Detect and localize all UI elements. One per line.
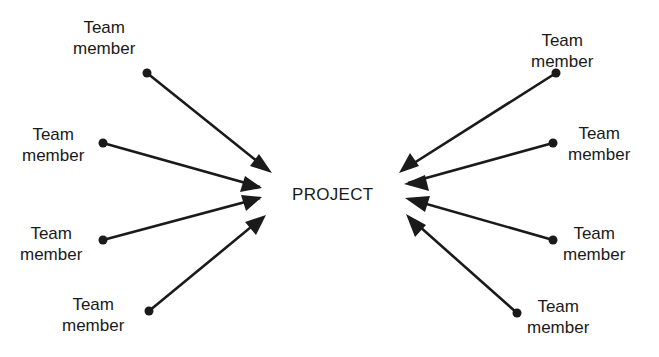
arrowhead-icon — [241, 195, 262, 211]
node-label-line1: Team — [531, 30, 593, 51]
node-dot-icon — [99, 139, 108, 148]
arrow-left-4 — [149, 218, 262, 311]
node-label-line2: member — [73, 38, 135, 59]
arrow-right-3 — [409, 199, 553, 240]
arrow-right-4 — [410, 218, 517, 313]
node-dot-icon — [513, 309, 522, 318]
node-label-line1: Team — [22, 124, 84, 145]
node-label-line2: member — [531, 51, 593, 72]
node-dot-icon — [145, 307, 154, 316]
node-label-line1: Team — [73, 17, 135, 38]
arrowhead-icon — [245, 215, 266, 235]
node-label-line1: Team — [527, 296, 589, 317]
node-dot-icon — [99, 236, 108, 245]
team-member-node: Team member — [20, 223, 82, 265]
arrowhead-icon — [240, 176, 262, 192]
node-label-line2: member — [62, 315, 124, 336]
team-member-node: Team member — [22, 124, 84, 166]
node-dot-icon — [549, 236, 558, 245]
team-member-node: Team member — [62, 294, 124, 336]
arrow-left-3 — [103, 198, 260, 240]
arrowhead-icon — [404, 175, 429, 191]
node-label-line2: member — [22, 145, 84, 166]
team-member-node: Team member — [531, 30, 593, 72]
node-label-line1: Team — [62, 294, 124, 315]
node-label-line2: member — [568, 144, 630, 165]
arrowhead-icon — [406, 214, 426, 237]
node-label-line1: Team — [20, 223, 82, 244]
node-dot-icon — [549, 139, 558, 148]
node-label-line2: member — [563, 244, 625, 265]
project-label: PROJECT — [292, 185, 373, 205]
arrow-right-1 — [403, 73, 556, 170]
node-label-line1: Team — [563, 223, 625, 244]
arrow-right-2 — [408, 143, 553, 183]
team-member-node: Team member — [568, 123, 630, 165]
node-label-line1: Team — [568, 123, 630, 144]
arrowhead-icon — [399, 153, 419, 173]
node-dot-icon — [143, 69, 152, 78]
team-member-node: Team member — [563, 223, 625, 265]
node-label-line2: member — [527, 317, 589, 338]
arrow-left-1 — [147, 73, 268, 170]
team-member-node: Team member — [527, 296, 589, 338]
node-label-line2: member — [20, 244, 82, 265]
arrowhead-icon — [405, 196, 430, 212]
arrow-left-2 — [103, 143, 260, 187]
team-member-node: Team member — [73, 17, 135, 59]
